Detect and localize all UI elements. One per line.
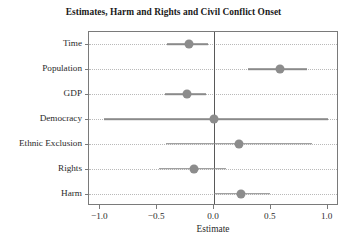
x-axis-tick: [213, 205, 214, 209]
y-axis-label-harm: Harm: [0, 188, 82, 198]
y-axis-label-democracy: Democracy: [0, 113, 82, 123]
estimate-point: [235, 139, 244, 148]
x-axis-tick-label: 0.5: [264, 211, 275, 221]
x-axis-tick: [270, 205, 271, 209]
y-axis-label-ethnic-exclusion: Ethnic Exclusion: [0, 138, 82, 148]
x-axis-tick: [99, 205, 100, 209]
estimate-point: [210, 115, 219, 124]
gridline: [89, 94, 337, 95]
y-axis-tick: [85, 44, 89, 45]
y-axis-label-gdp: GDP: [0, 88, 82, 98]
estimate-point: [237, 189, 246, 198]
y-axis-label-time: Time: [0, 38, 82, 48]
coefficient-plot: Estimates, Harm and Rights and Civil Con…: [0, 0, 347, 244]
estimate-point: [185, 40, 194, 49]
estimate-point: [189, 164, 198, 173]
y-axis-tick: [85, 144, 89, 145]
x-axis-tick-label: 1.0: [321, 211, 332, 221]
y-axis-label-population: Population: [0, 63, 82, 73]
y-axis-tick: [85, 94, 89, 95]
y-axis-tick: [85, 194, 89, 195]
x-axis: −1.0−0.50.00.51.0: [88, 205, 338, 225]
plot-inner: [89, 32, 337, 204]
y-axis-tick: [85, 69, 89, 70]
y-axis-tick: [85, 119, 89, 120]
x-axis-tick-label: −0.5: [148, 211, 165, 221]
estimate-point: [275, 65, 284, 74]
gridline: [89, 44, 337, 45]
y-axis-tick: [85, 169, 89, 170]
x-axis-title: Estimate: [88, 224, 338, 234]
plot-area: [88, 31, 338, 205]
x-axis-tick-label: 0.0: [207, 211, 218, 221]
x-axis-tick: [156, 205, 157, 209]
x-axis-tick: [327, 205, 328, 209]
estimate-point: [182, 90, 191, 99]
chart-title: Estimates, Harm and Rights and Civil Con…: [0, 7, 347, 17]
gridline: [89, 194, 337, 195]
y-axis-label-rights: Rights: [0, 163, 82, 173]
x-axis-tick-label: −1.0: [91, 211, 108, 221]
